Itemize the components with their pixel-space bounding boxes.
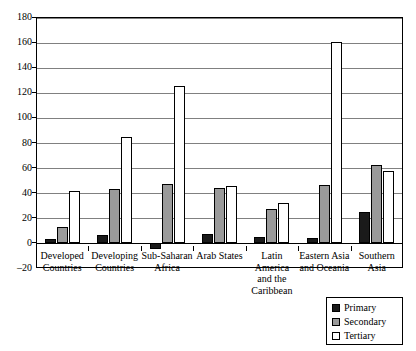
x-tick-label: Eastern Asiaand Oceania [298, 250, 350, 273]
y-tick-label: 60 [22, 163, 32, 173]
legend-swatch-secondary-icon [332, 318, 340, 326]
bar-tertiary [69, 191, 80, 242]
legend-label-secondary: Secondary [344, 317, 386, 327]
y-tick-label: 20 [22, 213, 32, 223]
bar-primary [307, 238, 318, 243]
bar-primary [202, 234, 213, 243]
y-tick-label: 180 [17, 12, 32, 22]
x-tick-label: Arab States [193, 250, 245, 262]
chart-legend: Primary Secondary Tertiary [326, 297, 403, 345]
y-tick-label: –20 [17, 263, 32, 273]
bar-tertiary [121, 137, 132, 242]
bar-secondary [266, 209, 277, 243]
x-tick-label: Latin Americaand theCaribbean [246, 250, 298, 296]
y-tick-label: 140 [17, 62, 32, 72]
bar-tertiary [383, 171, 394, 243]
x-tick-mark [193, 246, 194, 251]
legend-item-primary: Primary [332, 301, 402, 315]
bar-primary [359, 212, 370, 243]
y-tick-label: 120 [17, 87, 32, 97]
bar-tertiary [278, 203, 289, 243]
legend-item-tertiary: Tertiary [332, 329, 402, 343]
bar-secondary [162, 184, 173, 243]
bar-tertiary [174, 86, 185, 243]
y-tick-label: 100 [17, 112, 32, 122]
x-axis-labels: DevelopedCountriesDevelopingCountriesSub… [36, 250, 403, 296]
x-tick-mark [141, 246, 142, 251]
bar-primary [45, 239, 56, 243]
bar-secondary [214, 188, 225, 243]
legend-swatch-tertiary-icon [332, 332, 340, 340]
x-tick-label: DevelopingCountries [88, 250, 140, 273]
legend-label-tertiary: Tertiary [344, 331, 376, 341]
bar-secondary [57, 227, 68, 243]
y-tick-label: 40 [22, 188, 32, 198]
bar-secondary [371, 165, 382, 243]
x-tick-mark [351, 246, 352, 251]
bar-primary [254, 237, 265, 243]
bar-chart: –20020406080100120140160180 DevelopedCou… [0, 0, 416, 351]
y-axis: –20020406080100120140160180 [0, 17, 32, 268]
bar-tertiary [331, 42, 342, 243]
bar-secondary [109, 189, 120, 243]
x-tick-label: DevelopedCountries [36, 250, 88, 273]
legend-item-secondary: Secondary [332, 315, 402, 329]
x-tick-mark [298, 246, 299, 251]
legend-swatch-primary-icon [332, 304, 340, 312]
bars-layer [36, 17, 403, 268]
x-tick-label: Southern Asia [351, 250, 403, 273]
bar-primary [97, 235, 108, 243]
x-tick-mark [246, 246, 247, 251]
legend-label-primary: Primary [344, 303, 376, 313]
x-tick-label: Sub-SaharanAfrica [141, 250, 193, 273]
y-tick-label: 80 [22, 138, 32, 148]
bar-tertiary [226, 186, 237, 242]
y-tick-label: 160 [17, 37, 32, 47]
x-tick-mark [88, 246, 89, 251]
bar-primary [150, 243, 161, 249]
bar-secondary [319, 185, 330, 243]
